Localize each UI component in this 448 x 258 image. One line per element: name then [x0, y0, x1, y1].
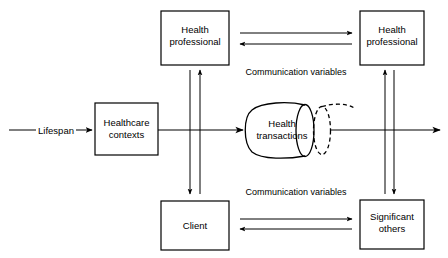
health-professional-left-label-line2: professional	[169, 36, 220, 47]
health-transactions-label-line1: Health	[268, 118, 295, 129]
healthcare-contexts-label-line1: Healthcare	[104, 117, 150, 128]
health-transactions-dashed-top-edge	[322, 104, 354, 108]
left-vertical-arrows-group	[190, 70, 200, 194]
node-significant-others: Significant others	[360, 200, 424, 249]
diagram-canvas: Lifespan Healthcare contexts Health tran…	[0, 0, 448, 258]
node-client: Client	[161, 201, 229, 250]
lifespan-label: Lifespan	[38, 125, 74, 136]
communication-bottom-group: Communication variables	[240, 187, 352, 229]
health-professional-left-label-line1: Health	[181, 24, 208, 35]
health-transactions-dashed-face	[314, 107, 331, 155]
node-healthcare-contexts: Healthcare contexts	[95, 103, 158, 155]
node-health-professional-right: Health professional	[360, 11, 424, 65]
significant-others-label-line2: others	[379, 223, 406, 234]
communication-variables-bottom-label: Communication variables	[245, 187, 347, 197]
node-health-professional-left: Health professional	[161, 11, 229, 65]
client-label-line1: Client	[183, 220, 208, 231]
health-professional-right-label-line1: Health	[378, 24, 405, 35]
health-transactions-label-line2: transactions	[256, 130, 307, 141]
right-vertical-arrows-group	[385, 70, 394, 194]
health-communication-diagram: Lifespan Healthcare contexts Health tran…	[0, 0, 448, 258]
significant-others-label-line1: Significant	[370, 211, 414, 222]
lifespan-arrow-group: Lifespan	[9, 125, 92, 136]
health-professional-right-label-line2: professional	[366, 36, 417, 47]
communication-variables-top-label: Communication variables	[245, 67, 347, 77]
communication-top-group: Communication variables	[240, 33, 352, 77]
healthcare-contexts-label-line2: contexts	[109, 129, 145, 140]
